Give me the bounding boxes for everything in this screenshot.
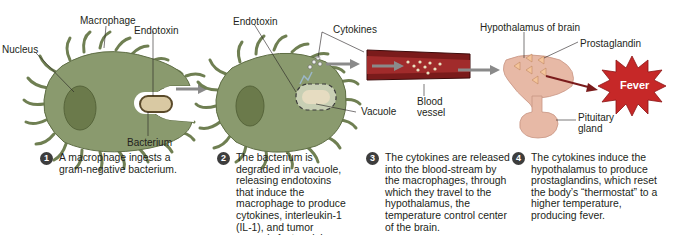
label-endotoxin-1: Endotoxin: [134, 25, 178, 36]
nucleus: [64, 86, 96, 130]
step-text: The bacterium is degraded in a vacuole, …: [236, 152, 348, 235]
step-1: 1 A macrophage ingests a gram-negative b…: [40, 152, 200, 192]
macrophage-cell-1: [24, 32, 204, 170]
step-number-badge: 4: [512, 152, 525, 165]
label-fever: Fever: [620, 80, 649, 91]
hypothalamus: [503, 54, 573, 138]
macrophage-cell-2: [196, 36, 360, 168]
label-macrophage: Macrophage: [80, 15, 136, 26]
step-number-badge: 2: [217, 152, 230, 165]
step-text: The cytokines are released into the bloo…: [385, 152, 513, 233]
label-blood-vessel: Blood vessel: [417, 96, 453, 118]
step-text: A macrophage ingests a gram-negative bac…: [59, 152, 189, 175]
pituitary-gland: [520, 96, 558, 138]
label-nucleus: Nucleus: [2, 44, 38, 55]
step-number-badge: 3: [366, 152, 379, 165]
label-vacuole: Vacuole: [361, 106, 396, 117]
label-bacterium: Bacterium: [127, 137, 172, 148]
label-prostaglandin: Prostaglandin: [580, 38, 641, 49]
step-2: 2 The bacterium is degraded in a vacuole…: [217, 152, 347, 232]
label-cytokines: Cytokines: [333, 24, 377, 35]
label-pituitary-gland: Pituitary gland: [578, 112, 620, 134]
step-text: The cytokines induce the hypothalamus to…: [531, 152, 659, 222]
step-4: 4 The cytokines induce the hypothalamus …: [512, 152, 662, 222]
label-hypothalamus: Hypothalamus of brain: [480, 22, 580, 33]
step-number-badge: 1: [40, 152, 53, 165]
bacterium: [140, 96, 172, 112]
blood-vessel: [367, 50, 470, 80]
step-3: 3 The cytokines are released into the bl…: [366, 152, 511, 222]
label-endotoxin-2: Endotoxin: [233, 16, 277, 27]
